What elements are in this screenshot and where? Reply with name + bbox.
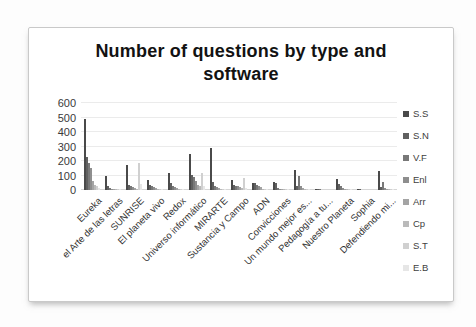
bar-group — [376, 103, 397, 190]
bar-eb — [161, 189, 163, 190]
chart-card: Number of questions by type and software… — [28, 27, 454, 302]
legend-swatch — [403, 265, 409, 271]
bar-eb — [308, 189, 310, 190]
legend-item-ss: S.S — [403, 109, 429, 119]
plot-area: 0100200300400500600 — [81, 103, 397, 190]
legend-swatch — [403, 177, 409, 183]
bar-group — [144, 103, 165, 190]
y-tick-label: 400 — [50, 126, 76, 138]
bar-eb — [287, 189, 289, 190]
bar-group — [334, 103, 355, 190]
bar-group — [355, 103, 376, 190]
legend-label: S.T — [413, 241, 428, 251]
bar-group — [102, 103, 123, 190]
y-tick-label: 300 — [50, 141, 76, 153]
legend-label: E.B — [413, 263, 428, 273]
legend-label: S.S — [413, 109, 428, 119]
legend-item-enl: Enl — [403, 175, 429, 185]
legend-label: V.F — [413, 153, 427, 163]
legend-label: Arr — [413, 197, 426, 207]
bar-sn — [359, 189, 361, 190]
legend-item-sn: S.N — [403, 131, 429, 141]
chart-title: Number of questions by type and software — [89, 40, 393, 85]
legend-item-cp: Cp — [403, 219, 429, 229]
bar-eb — [98, 188, 100, 190]
bar-eb — [350, 189, 352, 190]
bar-eb — [119, 189, 121, 190]
bar-eb — [392, 189, 394, 190]
legend-swatch — [403, 199, 409, 205]
legend-swatch — [403, 155, 409, 161]
legend-item-st: S.T — [403, 241, 429, 251]
bar-group — [313, 103, 334, 190]
bar-eb — [203, 186, 205, 190]
legend: S.SS.NV.FEnlArrCpS.TE.B — [403, 109, 429, 273]
bar-group — [271, 103, 292, 190]
y-tick-label: 200 — [50, 155, 76, 167]
legend-swatch — [403, 111, 409, 117]
legend-label: S.N — [413, 131, 429, 141]
y-tick-label: 600 — [50, 97, 76, 109]
legend-item-arr: Arr — [403, 197, 429, 207]
legend-label: Cp — [413, 219, 425, 229]
bar-eb — [245, 188, 247, 190]
bar-eb — [182, 189, 184, 190]
y-tick-label: 500 — [50, 112, 76, 124]
bar-group — [228, 103, 249, 190]
bar-eb — [140, 184, 142, 190]
legend-label: Enl — [413, 175, 427, 185]
bar-group — [207, 103, 228, 190]
legend-item-vf: V.F — [403, 153, 429, 163]
legend-item-eb: E.B — [403, 263, 429, 273]
bar-group — [250, 103, 271, 190]
bar-group — [123, 103, 144, 190]
bar-group — [186, 103, 207, 190]
bar-group — [292, 103, 313, 190]
legend-swatch — [403, 243, 409, 249]
bar-vf — [319, 189, 321, 190]
x-axis-labels: Eurekael Arte de las letrasSUNRISEEl pla… — [29, 195, 453, 299]
bar-group — [81, 103, 102, 190]
legend-swatch — [403, 221, 409, 227]
bar-groups — [81, 103, 397, 190]
bar-eb — [224, 189, 226, 190]
bar-eb — [266, 189, 268, 190]
bar-group — [165, 103, 186, 190]
y-tick-label: 100 — [50, 170, 76, 182]
legend-swatch — [403, 133, 409, 139]
